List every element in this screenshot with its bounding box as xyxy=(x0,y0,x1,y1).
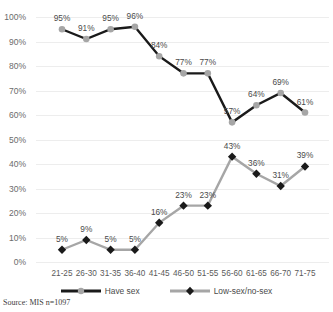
data-point-marker xyxy=(180,70,187,77)
y-axis-tick-label: 60% xyxy=(0,110,26,120)
y-axis-tick-label: 90% xyxy=(0,37,26,47)
x-axis-tick-label: 56-60 xyxy=(222,269,243,278)
y-axis-tick-label: 100% xyxy=(0,12,26,22)
x-axis-tick-label: 36-40 xyxy=(124,269,145,278)
data-point-label: 77% xyxy=(199,57,216,67)
x-axis-tick-label: 41-45 xyxy=(149,269,170,278)
data-point-label: 77% xyxy=(175,57,192,67)
x-axis-tick-label: 46-50 xyxy=(173,269,194,278)
x-axis-tick-label: 61-65 xyxy=(246,269,267,278)
legend-item-low-sex-no-sex[interactable]: Low-sex/no-sex xyxy=(170,286,273,296)
y-axis-tick-label: 70% xyxy=(0,86,26,96)
legend-swatch-have-sex xyxy=(61,286,101,296)
legend-swatch-low-sex-no-sex xyxy=(170,286,210,296)
legend-item-have-sex[interactable]: Have sex xyxy=(61,286,140,296)
data-point-label: 23% xyxy=(175,190,192,200)
data-point-marker xyxy=(156,53,163,60)
data-point-label: 39% xyxy=(297,150,314,160)
data-point-marker xyxy=(83,36,90,43)
plot-area: 100%90%80%70%60%50%40%30%20%10%0% 21-252… xyxy=(36,17,329,262)
data-point-label: 95% xyxy=(54,13,71,23)
gridline xyxy=(36,262,329,263)
data-point-marker xyxy=(205,70,212,77)
data-point-label: 5% xyxy=(56,234,68,244)
data-point-marker xyxy=(277,90,284,97)
data-point-label: 43% xyxy=(224,141,241,151)
data-point-marker xyxy=(59,26,66,33)
data-point-label: 69% xyxy=(272,77,289,87)
y-axis-tick-label: 30% xyxy=(0,184,26,194)
data-point-marker xyxy=(106,246,114,254)
data-point-label: 31% xyxy=(272,170,289,180)
x-axis-tick-label: 26-30 xyxy=(76,269,97,278)
x-axis-tick-label: 31-35 xyxy=(100,269,121,278)
data-point-label: 36% xyxy=(248,158,265,168)
data-point-label: 23% xyxy=(199,190,216,200)
data-point-label: 84% xyxy=(151,40,168,50)
y-axis-tick-label: 50% xyxy=(0,135,26,145)
legend-label-low-sex-no-sex: Low-sex/no-sex xyxy=(214,286,273,296)
data-point-label: 9% xyxy=(80,224,92,234)
data-point-label: 5% xyxy=(129,234,141,244)
source-note: Source: MIS n=1097 xyxy=(3,298,70,307)
y-axis-tick-label: 80% xyxy=(0,61,26,71)
data-point-marker xyxy=(253,102,260,109)
data-point-label: 61% xyxy=(297,97,314,107)
y-axis-tick-label: 40% xyxy=(0,159,26,169)
data-point-marker xyxy=(229,119,236,126)
y-axis-tick-label: 0% xyxy=(0,257,26,267)
data-point-label: 91% xyxy=(78,23,95,33)
data-point-marker xyxy=(82,236,90,244)
data-point-marker xyxy=(58,246,66,254)
data-point-label: 96% xyxy=(127,11,144,21)
y-axis-tick-label: 10% xyxy=(0,233,26,243)
chart-legend: Have sex Low-sex/no-sex xyxy=(0,286,333,296)
x-axis-tick-label: 51-55 xyxy=(197,269,218,278)
x-axis-tick-label: 21-25 xyxy=(52,269,73,278)
legend-label-have-sex: Have sex xyxy=(105,286,140,296)
data-point-label: 57% xyxy=(224,106,241,116)
data-point-marker xyxy=(132,24,139,31)
data-point-label: 5% xyxy=(105,234,117,244)
data-point-label: 16% xyxy=(151,207,168,217)
data-point-marker xyxy=(107,26,114,33)
data-point-marker xyxy=(302,109,309,116)
data-point-label: 64% xyxy=(248,89,265,99)
y-axis-tick-label: 20% xyxy=(0,208,26,218)
line-chart: 100%90%80%70%60%50%40%30%20%10%0% 21-252… xyxy=(0,0,333,312)
data-point-marker xyxy=(204,201,212,209)
data-point-label: 95% xyxy=(102,13,119,23)
x-axis-tick-label: 71-75 xyxy=(295,269,316,278)
x-axis-tick-label: 66-70 xyxy=(270,269,291,278)
